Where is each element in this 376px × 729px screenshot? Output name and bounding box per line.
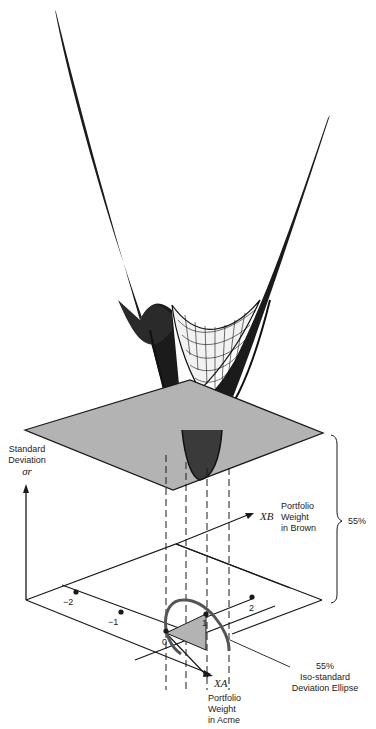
projection-lines (166, 455, 229, 690)
xa-axis-label-line1: Portfolio (208, 693, 241, 704)
y-axis-label: Standard Deviation σr (3, 444, 51, 477)
tick-two: 2 (249, 603, 254, 613)
xb-axis (176, 514, 250, 544)
tick-neg2: −2 (63, 597, 73, 607)
iso-plane (25, 380, 323, 490)
xa-axis-label-line3: in Acme (208, 715, 241, 726)
tick-zero: 0 (162, 637, 167, 647)
xb-axis-label-line3: in Brown (281, 523, 316, 534)
xa-axis-arrow-icon (203, 670, 213, 677)
ellipse-label-line3: Deviation Ellipse (275, 683, 375, 694)
y-axis-arrow-icon (23, 484, 29, 493)
brace-label: 55% (348, 516, 366, 527)
xb-axis-label-line1: Portfolio (281, 501, 316, 512)
base-plane (26, 544, 322, 677)
xb-axis-symbol: XB (260, 511, 273, 522)
brace (331, 435, 342, 603)
tick-one: 1 (202, 618, 207, 628)
risk-surface-diagram (0, 0, 376, 729)
ellipse-label-line2: Iso-standard (275, 672, 375, 683)
ellipse-label-line1: 55% (275, 661, 375, 672)
xb-axis-label: Portfolio Weight in Brown (281, 501, 316, 534)
ellipse-label: 55% Iso-standard Deviation Ellipse (275, 661, 375, 694)
xa-axis-symbol: XA (214, 678, 227, 689)
xb-axis-label-line2: Weight (281, 512, 316, 523)
y-axis-label-line1: Standard (3, 444, 51, 455)
xa-axis-label-line2: Weight (208, 704, 241, 715)
tick-neg1: −1 (108, 617, 118, 627)
y-axis-symbol: σr (3, 466, 51, 477)
tick-dots (73, 589, 254, 633)
xa-axis-label: Portfolio Weight in Acme (208, 693, 241, 726)
